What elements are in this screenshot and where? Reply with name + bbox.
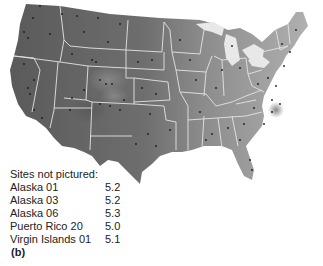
panel-label: (b)	[11, 246, 25, 258]
legend-row: Alaska 065.3	[10, 207, 120, 220]
legend-row: Alaska 035.2	[10, 194, 120, 207]
legend-row: Puerto Rico 205.0	[10, 220, 120, 233]
us-landmass	[10, 4, 308, 184]
legend-title: Sites not pictured:	[10, 168, 120, 181]
legend-row: Virgin Islands 015.1	[10, 233, 120, 246]
sites-not-pictured-legend: Sites not pictured: Alaska 015.2 Alaska …	[10, 168, 120, 246]
legend-row: Alaska 015.2	[10, 181, 120, 194]
